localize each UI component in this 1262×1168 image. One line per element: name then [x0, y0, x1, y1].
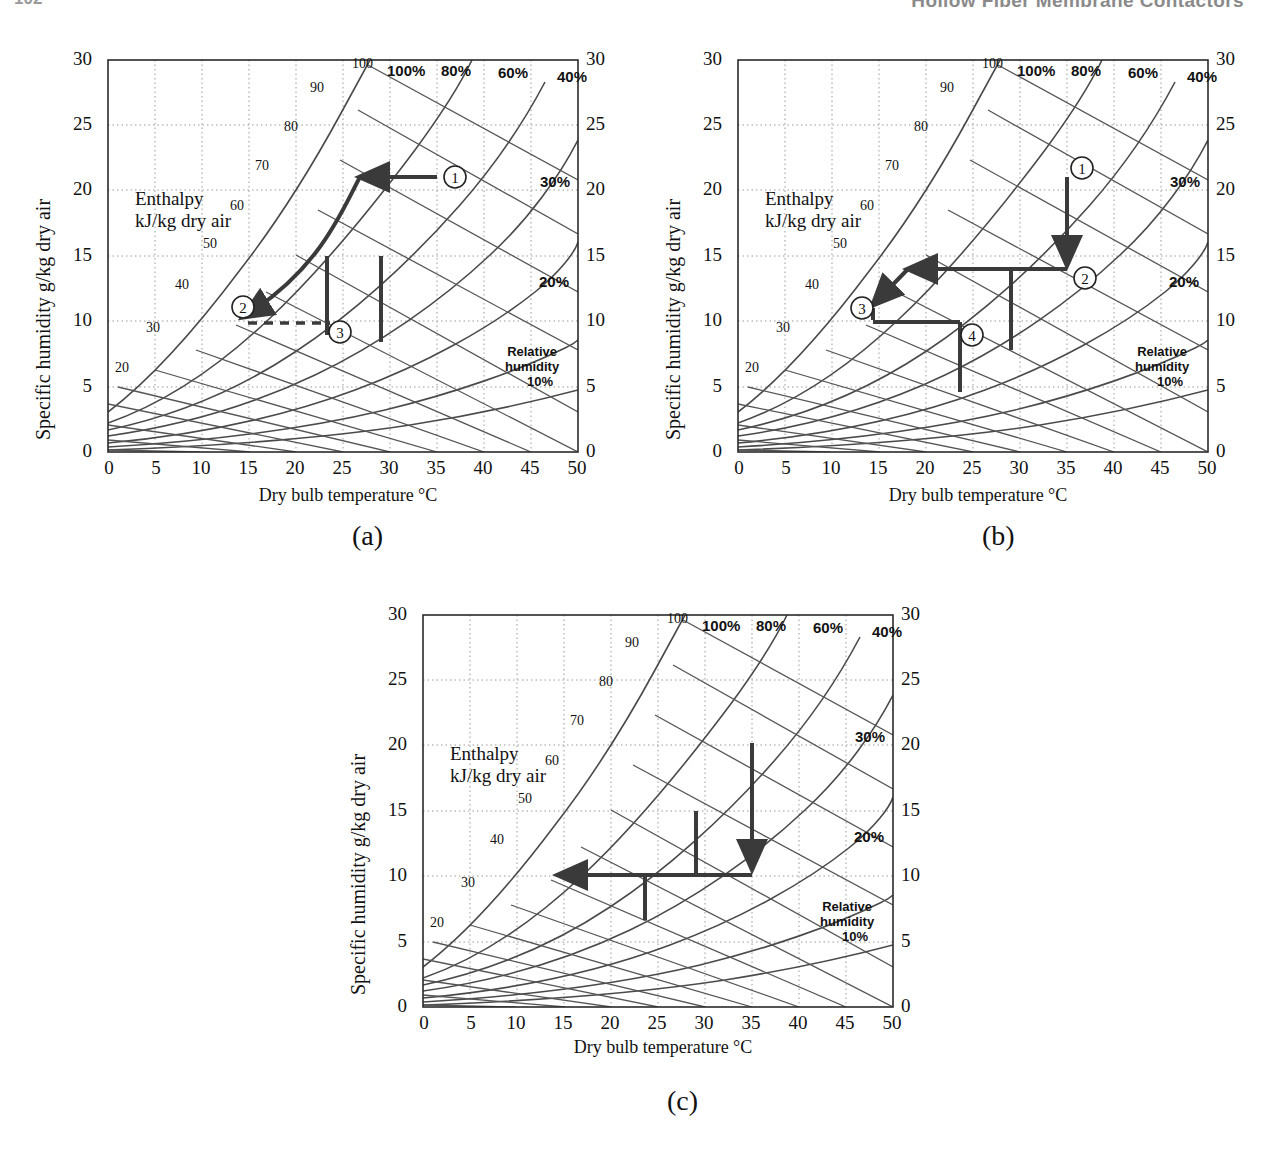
rh-label-c-80: 80% — [756, 617, 786, 634]
rh-label-c-30: 30% — [855, 728, 885, 745]
enthalpy-label-b-60: 60 — [860, 198, 874, 214]
enthalpy-label-a-30: 30 — [146, 320, 160, 336]
caption-a: (a) — [352, 520, 383, 552]
psychrometric-plot-b: 1 2 3 4 — [630, 20, 1230, 480]
rh-label-c-60: 60% — [813, 619, 843, 636]
svg-text:3: 3 — [858, 301, 866, 317]
enthalpy-label-c-40: 40 — [490, 832, 504, 848]
rh-label-a-80: 80% — [441, 62, 471, 79]
svg-text:1: 1 — [1078, 161, 1086, 177]
chart-panel-c: Specific humidity g/kg dry air 30 25 20 … — [315, 575, 915, 1095]
svg-text:1: 1 — [451, 170, 459, 186]
enthalpy-label-c-60: 60 — [545, 753, 559, 769]
enthalpy-label-a-50: 50 — [203, 236, 217, 252]
rh-label-b-80: 80% — [1071, 62, 1101, 79]
x-axis-label-c: Dry bulb temperature °C — [543, 1037, 783, 1058]
enthalpy-label-c-90: 90 — [625, 635, 639, 651]
rh-label-b-20: 20% — [1169, 273, 1199, 290]
svg-text:4: 4 — [968, 328, 976, 344]
state-markers-a: 1 2 3 — [232, 166, 466, 343]
enthalpy-label-b-70: 70 — [885, 158, 899, 174]
enthalpy-label-c-80: 80 — [599, 674, 613, 690]
enthalpy-title-a: Enthalpy kJ/kg dry air — [135, 188, 231, 232]
enthalpy-label-c-70: 70 — [570, 713, 584, 729]
enthalpy-label-a-80: 80 — [284, 119, 298, 135]
x-axis-label-b: Dry bulb temperature °C — [858, 485, 1098, 506]
enthalpy-label-a-90: 90 — [310, 80, 324, 96]
psychrometric-plot-c — [315, 575, 915, 1035]
rh-label-b-40: 40% — [1187, 68, 1217, 85]
enthalpy-label-c-50: 50 — [518, 791, 532, 807]
rh-label-b-60: 60% — [1128, 64, 1158, 81]
rh-legend-a: Relative humidity 10% — [505, 345, 559, 390]
caption-b: (b) — [982, 520, 1015, 552]
chart-panel-a: Specific humidity g/kg dry air 30 25 20 … — [0, 20, 600, 540]
rh-label-a-40: 40% — [557, 68, 587, 85]
enthalpy-label-c-30: 30 — [461, 875, 475, 891]
process-arrow-a-2 — [243, 177, 360, 317]
rh-label-a-60: 60% — [498, 64, 528, 81]
enthalpy-title-b: Enthalpy kJ/kg dry air — [765, 188, 861, 232]
enthalpy-label-a-40: 40 — [175, 277, 189, 293]
enthalpy-label-b-100: 100 — [982, 56, 1003, 72]
rh-label-c-40: 40% — [872, 623, 902, 640]
enthalpy-label-c-100: 100 — [667, 611, 688, 627]
enthalpy-label-a-60: 60 — [230, 198, 244, 214]
rh-label-b-100: 100% — [1017, 62, 1055, 79]
psychrometric-plot-a: 1 2 3 — [0, 20, 600, 480]
rh-label-a-20: 20% — [539, 273, 569, 290]
x-axis-label-a: Dry bulb temperature °C — [228, 485, 468, 506]
psychrometric-figure: Specific humidity g/kg dry air 30 25 20 … — [0, 0, 1262, 1168]
enthalpy-label-a-100: 100 — [352, 56, 373, 72]
chart-panel-b: Specific humidity g/kg dry air 30 25 20 … — [630, 20, 1230, 540]
rh-legend-c: Relative humidity 10% — [820, 900, 874, 945]
enthalpy-label-b-90: 90 — [940, 80, 954, 96]
svg-text:3: 3 — [336, 325, 344, 341]
enthalpy-label-b-50: 50 — [833, 236, 847, 252]
rh-legend-b: Relative humidity 10% — [1135, 345, 1189, 390]
enthalpy-label-b-30: 30 — [776, 320, 790, 336]
enthalpy-label-b-80: 80 — [914, 119, 928, 135]
rh-label-c-20: 20% — [854, 828, 884, 845]
caption-c: (c) — [667, 1085, 698, 1117]
rh-label-a-100: 100% — [387, 62, 425, 79]
enthalpy-label-a-70: 70 — [255, 158, 269, 174]
enthalpy-title-c: Enthalpy kJ/kg dry air — [450, 743, 546, 787]
rh-label-c-100: 100% — [702, 617, 740, 634]
rh-label-a-30: 30% — [540, 173, 570, 190]
process-arrow-b-3 — [873, 269, 908, 305]
enthalpy-label-c-20: 20 — [430, 915, 444, 931]
enthalpy-label-b-20: 20 — [745, 360, 759, 376]
svg-text:2: 2 — [1081, 271, 1089, 287]
enthalpy-label-b-40: 40 — [805, 277, 819, 293]
enthalpy-label-a-20: 20 — [115, 360, 129, 376]
svg-text:2: 2 — [239, 300, 247, 316]
rh-label-b-30: 30% — [1170, 173, 1200, 190]
